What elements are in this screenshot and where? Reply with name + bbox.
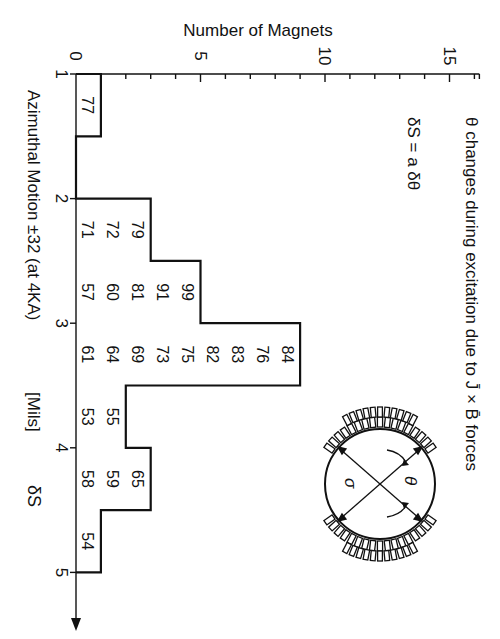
coil-block [391,418,398,429]
magnet-id-label: 75 [179,345,196,363]
formula-annotation: δS = a δθ [404,117,423,190]
count-tick-label: 0 [66,51,85,60]
count-tick-label: 15 [440,47,459,66]
magnet-id-label: 81 [129,283,146,301]
magnet-id-label: 84 [279,345,296,363]
coil-block [369,540,375,551]
magnet-id-label: 71 [79,221,96,239]
bin-tick-label: 1 [52,69,71,78]
coil-block [391,539,398,550]
magnet-id-label: 77 [79,96,96,114]
magnet-id-label: 69 [129,345,146,363]
coil-block [363,549,370,560]
magnet-id-label: 72 [104,221,121,239]
magnet-id-label: 59 [104,470,121,488]
magnet-id-label: 65 [129,470,146,488]
coil-block [384,407,390,417]
bin-axis-title-main: Azimuthal Motion ±32 (at 4KA) [24,90,43,320]
count-axis-title: Number of Magnets [183,21,332,40]
magnet-cross-section-diagram: σ θ [324,407,436,561]
magnet-id-label: 55 [104,408,121,426]
coil-block [390,549,397,560]
histogram-outline [76,74,300,572]
coil-block [384,550,390,560]
magnet-id-label: 53 [79,408,96,426]
magnet-id-label: 64 [104,345,121,363]
coil-block [384,540,390,551]
bin-axis-symbol: δS [24,485,44,507]
magnet-id-label: 79 [129,221,146,239]
count-axis [76,74,479,82]
theta-label: θ [401,476,420,486]
magnet-id-label: 99 [179,283,196,301]
coil-block [369,417,375,428]
magnet-id-label: 91 [154,283,171,301]
bin-tick-label: 4 [52,443,71,452]
magnet-id-label: 54 [79,532,96,550]
magnet-id-label: 83 [229,345,246,363]
histogram-figure: Number of Magnets 051015 12345 777172795… [0,0,500,639]
count-tick-labels: 051015 [66,47,459,66]
magnet-id-label: 60 [104,283,121,301]
coil-block [390,408,397,419]
chart-title: θ changes during excitation due to J̄ × … [462,117,481,471]
sigma-label: σ [341,478,360,489]
coil-block [363,408,370,419]
bin-axis-title: Azimuthal Motion ±32 (at 4KA) [24,90,43,320]
count-tick-label: 10 [315,47,334,66]
bin-axis-unit: [Mils] [24,392,43,432]
coil-block [362,418,369,429]
coil-block [370,550,376,560]
bin-tick-label: 5 [52,568,71,577]
coil-block [384,417,390,428]
bin-tick-labels: 12345 [52,69,71,577]
coil-block [370,407,376,417]
axis-arrow-icon [71,618,81,631]
magnet-id-label: 82 [204,345,221,363]
bin-tick-label: 3 [52,318,71,327]
magnet-id-label: 57 [79,283,96,301]
magnet-id-label: 73 [154,345,171,363]
coil-block [377,417,382,427]
magnet-id-label: 76 [254,345,271,363]
count-tick-label: 5 [191,51,210,60]
magnet-id-label: 58 [79,470,96,488]
coil-block [362,539,369,550]
coil-block [378,551,383,561]
coil-block [378,407,383,417]
bin-tick-label: 2 [52,194,71,203]
magnet-id-label: 61 [79,345,96,363]
coil-block [377,541,382,551]
